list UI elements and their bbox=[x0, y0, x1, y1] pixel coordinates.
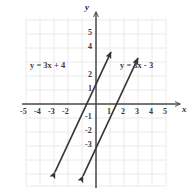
y-tick-label-4: 4 bbox=[88, 43, 92, 51]
x-tick-label--5: -5 bbox=[20, 108, 27, 116]
x-tick-label-4: 4 bbox=[149, 108, 153, 116]
y-tick-label-2: 2 bbox=[88, 71, 92, 79]
equation-label-left: y = 3x + 4 bbox=[30, 61, 65, 70]
y-tick-label--3: -3 bbox=[85, 141, 92, 149]
equation-label-right: y = 3x - 3 bbox=[120, 61, 153, 70]
y-axis-name: y bbox=[85, 3, 89, 12]
y-tick-label--2: -2 bbox=[85, 127, 92, 135]
x-axis-name: x bbox=[182, 105, 187, 114]
x-tick-label-1: 1 bbox=[107, 108, 111, 116]
x-tick-label--4: -4 bbox=[34, 108, 41, 116]
x-tick-label-5: 5 bbox=[163, 108, 167, 116]
y-tick-label-1: 1 bbox=[88, 85, 92, 93]
coordinate-graph-figure: y x -5 -4 -3 -2 1 2 3 4 5 5 4 2 1 -1 -2 … bbox=[0, 0, 193, 193]
x-tick-label-3: 3 bbox=[135, 108, 139, 116]
y-tick-label--1: -1 bbox=[85, 113, 92, 121]
graph-canvas bbox=[0, 0, 193, 193]
x-tick-label--3: -3 bbox=[48, 108, 55, 116]
x-tick-label--2: -2 bbox=[62, 108, 69, 116]
x-tick-label-2: 2 bbox=[121, 108, 125, 116]
y-tick-label-5: 5 bbox=[88, 29, 92, 37]
